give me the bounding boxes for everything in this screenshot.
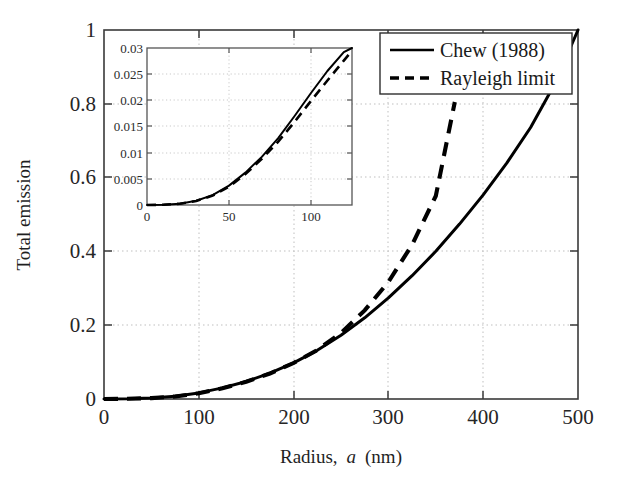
y-axis-title: Total emission [13, 159, 34, 271]
ytick-label: 0.2 [70, 313, 96, 337]
main-xtick-labels: 0 100 200 300 400 500 [99, 405, 594, 429]
x-axis-title-unit: (nm) [365, 446, 402, 468]
svg-text:Radius, a (nm): Radius, a (nm) [280, 446, 402, 468]
xtick-label: 300 [372, 405, 404, 429]
x-axis-title-prefix: Radius, [280, 446, 338, 467]
x-axis-title: Radius, a (nm) [280, 446, 402, 468]
inset-ytick-label: 0.025 [114, 67, 143, 82]
x-axis-title-symbol: a [347, 446, 357, 467]
xtick-label: 200 [278, 405, 310, 429]
ytick-label: 0 [86, 387, 97, 411]
y-axis-title-text: Total emission [13, 159, 34, 271]
xtick-label: 500 [562, 405, 594, 429]
main-ytick-labels: 0 0.2 0.4 0.6 0.8 1 [70, 18, 97, 411]
legend: Chew (1988) Rayleigh limit [380, 33, 572, 94]
xtick-label: 100 [183, 405, 215, 429]
ytick-label: 0.8 [70, 92, 96, 116]
legend-entry-label: Rayleigh limit [440, 67, 555, 90]
inset-ytick-labels: 0 0.005 0.01 0.015 0.02 0.025 0.03 [114, 41, 143, 213]
inset-ytick-label: 0.015 [114, 119, 143, 134]
inset-xtick-label: 100 [301, 209, 321, 224]
xtick-label: 0 [99, 405, 110, 429]
inset-ytick-label: 0.01 [120, 146, 143, 161]
inset-ytick-label: 0.005 [114, 172, 143, 187]
inset-xtick-label: 0 [144, 209, 151, 224]
inset-xtick-label: 50 [223, 209, 236, 224]
ytick-label: 1 [86, 18, 97, 42]
xtick-label: 400 [467, 405, 499, 429]
ytick-label: 0.4 [70, 239, 97, 263]
inset-plot: 0 50 100 0 0.005 0.01 0.015 0.02 0.025 0… [114, 41, 352, 224]
inset-ytick-label: 0.02 [120, 93, 143, 108]
chart-svg: 0 100 200 300 400 500 0 0.2 0.4 0.6 0.8 … [0, 0, 618, 486]
figure-canvas: 0 100 200 300 400 500 0 0.2 0.4 0.6 0.8 … [0, 0, 618, 486]
inset-ytick-label: 0.03 [120, 41, 143, 56]
inset-ytick-label: 0 [137, 198, 144, 213]
legend-entry-label: Chew (1988) [440, 39, 545, 62]
ytick-label: 0.6 [70, 165, 96, 189]
